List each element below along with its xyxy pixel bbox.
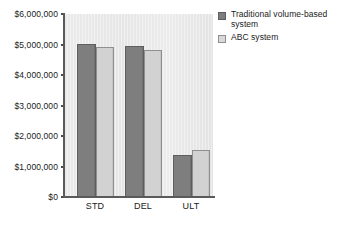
bar-ult-traditional — [173, 155, 192, 197]
legend-item-abc: ABC system — [218, 33, 356, 43]
legend-swatch-traditional-icon — [218, 12, 226, 20]
bar-chart: $6,000,000 $5,000,000 $4,000,000 $3,000,… — [0, 0, 358, 225]
y-axis-labels: $6,000,000 $5,000,000 $4,000,000 $3,000,… — [0, 0, 62, 225]
x-axis-line — [63, 196, 215, 198]
bar-std-traditional — [77, 44, 96, 197]
y-axis-tick-label: $0 — [48, 192, 58, 202]
x-axis-labels: STD DEL ULT — [64, 199, 213, 219]
y-axis-tick-label: $4,000,000 — [14, 70, 58, 80]
bar-std-abc — [96, 47, 114, 197]
legend-label-traditional: Traditional volume-based system — [231, 10, 356, 29]
legend-item-traditional: Traditional volume-based system — [218, 10, 356, 29]
x-axis-label-ult: ULT — [183, 201, 200, 211]
bar-ult-abc — [192, 150, 210, 197]
legend-label-abc: ABC system — [231, 33, 278, 43]
y-axis-tick-label: $1,000,000 — [14, 162, 58, 172]
bar-del-abc — [144, 50, 162, 197]
legend-swatch-abc-icon — [218, 35, 226, 43]
y-axis-tick-label: $2,000,000 — [14, 131, 58, 141]
y-axis-tick-label: $6,000,000 — [14, 9, 58, 19]
y-axis-tick-label: $3,000,000 — [14, 101, 58, 111]
y-axis-line — [63, 13, 65, 198]
x-axis-label-std: STD — [86, 201, 105, 211]
chart-legend: Traditional volume-based system ABC syst… — [218, 10, 356, 47]
plot-area — [64, 14, 213, 197]
x-axis-label-del: DEL — [134, 201, 152, 211]
bar-del-traditional — [125, 46, 144, 197]
y-axis-tick-label: $5,000,000 — [14, 40, 58, 50]
